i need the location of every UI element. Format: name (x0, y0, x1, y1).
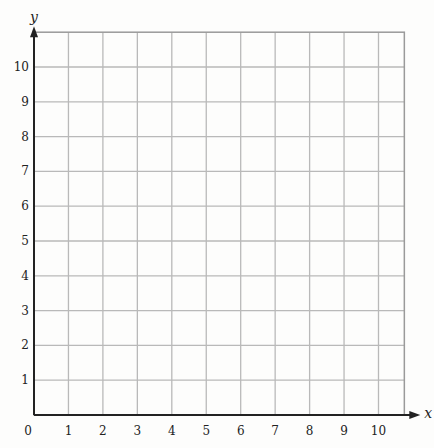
y-tick-label: 7 (21, 164, 29, 178)
x-tick-label: 3 (134, 424, 142, 438)
x-tick-label: 7 (271, 424, 279, 438)
y-tick-label: 3 (21, 304, 29, 318)
x-tick-label: 4 (168, 424, 176, 438)
y-tick-label: 6 (21, 199, 29, 213)
x-tick-label: 6 (237, 424, 245, 438)
plot-border (34, 32, 404, 415)
x-tick-label: 8 (306, 424, 314, 438)
axes (30, 26, 420, 419)
x-tick-label: 10 (371, 424, 386, 438)
y-tick-label: 5 (21, 234, 29, 248)
grid-lines (34, 32, 404, 415)
y-tick-label: 4 (21, 269, 29, 283)
x-tick-label: 0 (24, 424, 32, 438)
y-axis-label: y (29, 9, 39, 25)
y-tick-label: 10 (14, 60, 29, 74)
x-tick-label: 5 (202, 424, 210, 438)
x-tick-label: 2 (99, 424, 107, 438)
y-tick-labels: 12345678910 (14, 60, 30, 387)
x-axis-arrow-icon (409, 411, 420, 419)
x-tick-labels: 012345678910 (24, 424, 386, 438)
x-tick-label: 9 (340, 424, 348, 438)
x-axis-label: x (424, 405, 432, 421)
coordinate-grid: 012345678910 12345678910 x y (0, 0, 434, 448)
y-tick-label: 2 (21, 338, 29, 352)
x-tick-label: 1 (65, 424, 73, 438)
y-tick-label: 8 (21, 130, 29, 144)
y-tick-label: 1 (21, 373, 29, 387)
y-tick-label: 9 (21, 95, 29, 109)
